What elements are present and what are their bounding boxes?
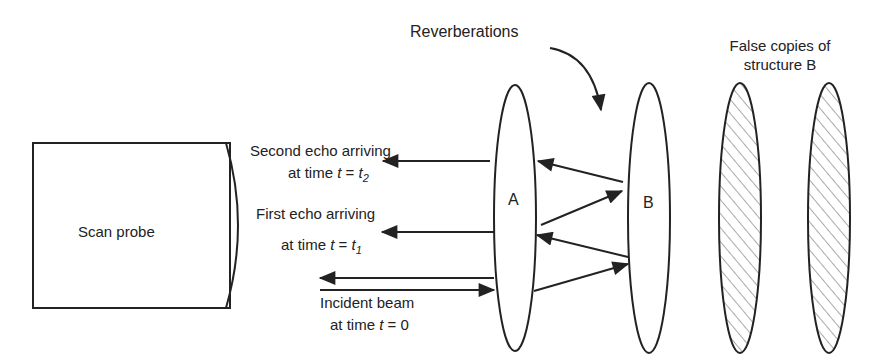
reverberations-label: Reverberations xyxy=(410,23,519,41)
probe-lens-curve xyxy=(226,143,238,308)
false-copy-2-ellipse xyxy=(808,83,850,353)
first-echo-sub: 1 xyxy=(356,244,362,256)
false-copy-1-ellipse xyxy=(719,83,761,353)
first-echo-label-line1: First echo arriving xyxy=(256,205,375,223)
false-copies-label-line1: False copies of xyxy=(706,37,854,55)
false-copies-label-line2: structure B xyxy=(706,56,854,74)
reverb-arrow-b-to-a-2 xyxy=(537,235,628,257)
reverberations-arrow xyxy=(550,48,601,110)
structure-b-label: B xyxy=(643,194,654,212)
second-echo-label-line1: Second echo arriving xyxy=(250,142,391,160)
structure-b-ellipse xyxy=(628,83,670,353)
second-echo-eq: = xyxy=(341,164,358,181)
structure-a-ellipse xyxy=(494,85,536,351)
structure-a-label: A xyxy=(508,191,519,209)
incident-beam-label-line2: at time t = 0 xyxy=(330,316,409,334)
incident-eq: = xyxy=(383,316,400,333)
second-echo-sub: 2 xyxy=(363,172,369,184)
incident-prefix: at time xyxy=(330,316,379,333)
second-echo-prefix: at time xyxy=(288,164,337,181)
reverb-arrow-a-to-b-2 xyxy=(534,264,628,291)
first-echo-eq: = xyxy=(334,236,351,253)
first-echo-label-line2: at time t = t1 xyxy=(281,236,362,259)
reverb-arrow-a-to-b-1 xyxy=(541,191,622,225)
incident-beam-label-line1: Incident beam xyxy=(320,294,414,312)
first-echo-prefix: at time xyxy=(281,236,330,253)
second-echo-label-line2: at time t = t2 xyxy=(288,164,369,187)
incident-val: 0 xyxy=(400,316,408,333)
reverb-arrow-b-to-a-1 xyxy=(538,161,623,182)
scan-probe-label: Scan probe xyxy=(78,223,155,241)
